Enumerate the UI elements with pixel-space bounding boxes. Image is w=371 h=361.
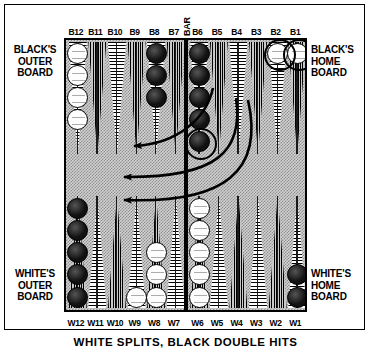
point-number-B1: B1 <box>284 27 306 37</box>
checker-black-W1[interactable] <box>287 264 307 285</box>
point-spike <box>116 196 117 308</box>
checker-black-B8[interactable] <box>146 65 167 86</box>
point-B11[interactable] <box>88 42 106 154</box>
figure-caption: WHITE SPLITS, BLACK DOUBLE HITS <box>0 336 371 348</box>
checker-white-W6[interactable] <box>189 287 210 308</box>
label-line: OUTER <box>7 280 63 292</box>
label-line: BLACK'S <box>311 44 369 56</box>
label-line: BOARD <box>7 67 63 79</box>
checker-black-B6[interactable] <box>189 87 210 108</box>
label-line: OUTER <box>7 56 63 68</box>
checker-white-W8[interactable] <box>146 264 167 285</box>
point-spike <box>136 42 137 154</box>
checker-black-W12[interactable] <box>67 287 88 308</box>
label-line: HOME <box>311 56 369 68</box>
point-spike <box>175 42 176 154</box>
point-W4[interactable] <box>229 196 247 308</box>
point-W11[interactable] <box>88 196 106 308</box>
checker-black-B6[interactable] <box>189 43 210 64</box>
label-blacks-outer-board: BLACK'S OUTER BOARD <box>7 44 63 79</box>
point-spike <box>218 196 219 308</box>
highlight-ring-B6 <box>185 128 217 160</box>
checker-black-B8[interactable] <box>146 43 167 64</box>
checker-black-B6[interactable] <box>189 109 210 130</box>
point-W7[interactable] <box>167 196 185 308</box>
label-whites-outer-board: WHITE'S OUTER BOARD <box>7 268 63 303</box>
checker-white-W6[interactable] <box>189 198 210 219</box>
point-spike <box>96 196 97 308</box>
checker-white-W8[interactable] <box>146 242 167 263</box>
checker-black-W12[interactable] <box>67 198 88 219</box>
point-W5[interactable] <box>210 196 228 308</box>
point-B7[interactable] <box>167 42 185 154</box>
point-number-B7: B7 <box>163 27 185 37</box>
checker-white-B12[interactable] <box>67 65 88 86</box>
point-number-W7: W7 <box>163 318 185 328</box>
label-line: BOARD <box>311 291 369 303</box>
point-spike <box>257 196 258 308</box>
label-line: WHITE'S <box>311 268 369 280</box>
point-W2[interactable] <box>269 196 287 308</box>
point-spike <box>237 196 238 308</box>
point-spike <box>237 42 238 154</box>
label-line: BOARD <box>7 291 63 303</box>
board-surface <box>64 38 307 312</box>
label-line: BLACK'S <box>7 44 63 56</box>
point-number-W1: W1 <box>284 318 306 328</box>
checker-white-B12[interactable] <box>67 43 88 64</box>
checker-black-B8[interactable] <box>146 87 167 108</box>
point-B4[interactable] <box>229 42 247 154</box>
point-spike <box>175 196 176 308</box>
checker-black-W1[interactable] <box>287 287 307 308</box>
highlight-ring-B1 <box>283 39 307 71</box>
point-spike <box>218 42 219 154</box>
checker-black-B6[interactable] <box>189 65 210 86</box>
point-spike <box>116 42 117 154</box>
checker-white-W6[interactable] <box>189 242 210 263</box>
checker-white-W6[interactable] <box>189 220 210 241</box>
point-spike <box>277 196 278 308</box>
point-W10[interactable] <box>108 196 126 308</box>
backgammon-figure: BLACK'S OUTER BOARD BLACK'S HOME BOARD W… <box>0 0 371 361</box>
point-B10[interactable] <box>108 42 126 154</box>
label-blacks-home-board: BLACK'S HOME BOARD <box>311 44 369 79</box>
checker-white-W8[interactable] <box>146 287 167 308</box>
label-line: BOARD <box>311 67 369 79</box>
point-B9[interactable] <box>128 42 146 154</box>
center-bar <box>184 40 188 310</box>
point-spike <box>257 42 258 154</box>
label-line: WHITE'S <box>7 268 63 280</box>
label-line: HOME <box>311 280 369 292</box>
label-whites-home-board: WHITE'S HOME BOARD <box>311 268 369 303</box>
checker-white-W6[interactable] <box>189 264 210 285</box>
checker-white-W9[interactable] <box>126 287 147 308</box>
point-spike <box>96 42 97 154</box>
point-W3[interactable] <box>249 196 267 308</box>
